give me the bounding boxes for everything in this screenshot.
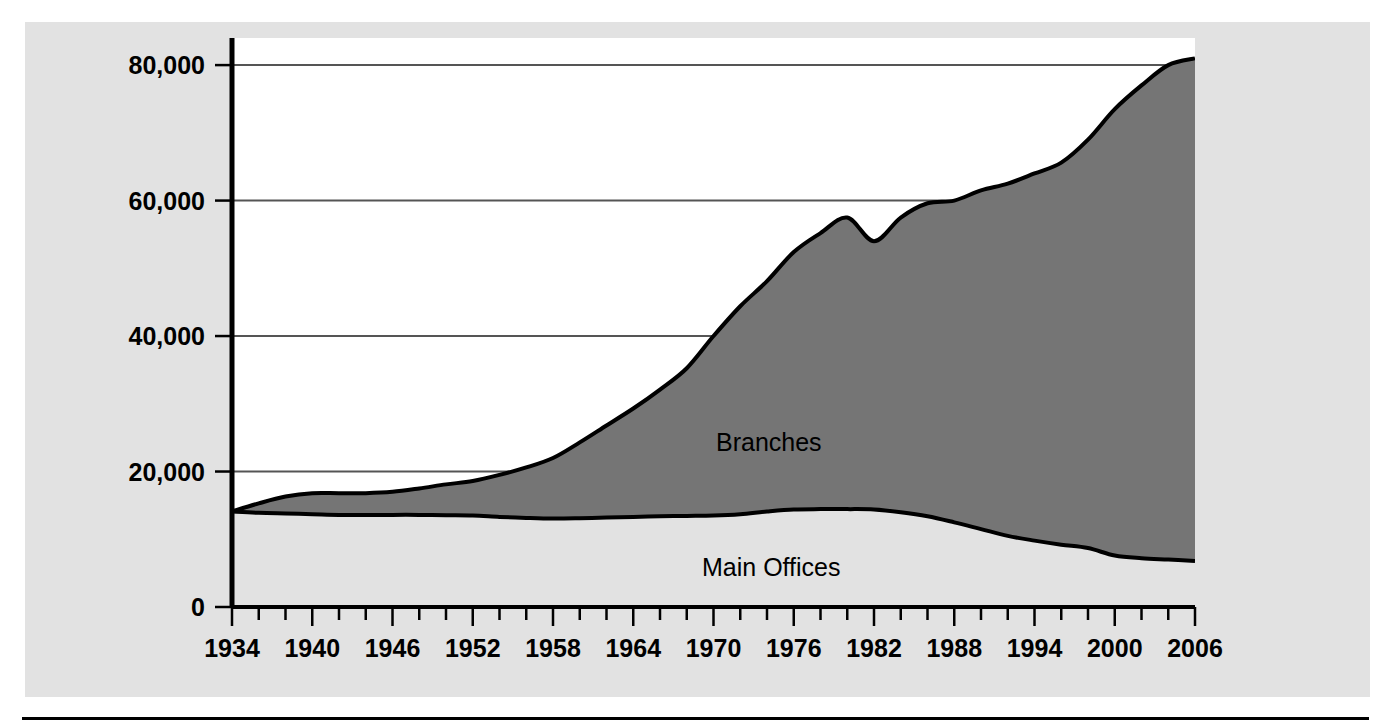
y-tick-label-80000: 80,000: [129, 51, 205, 79]
y-tick-label-0: 0: [191, 593, 205, 621]
x-tick-label-1934: 1934: [204, 634, 260, 662]
x-axis-tick-labels: 1934194019461952195819641970197619821988…: [204, 634, 1223, 662]
x-tick-label-1940: 1940: [284, 634, 340, 662]
y-axis-ticks: [215, 65, 232, 607]
x-tick-label-2000: 2000: [1087, 634, 1143, 662]
x-tick-label-1982: 1982: [846, 634, 902, 662]
y-tick-label-60000: 60,000: [129, 187, 205, 215]
branches-series-label: Branches: [716, 428, 822, 456]
x-tick-label-1976: 1976: [766, 634, 822, 662]
x-tick-label-1958: 1958: [525, 634, 581, 662]
x-tick-label-1970: 1970: [686, 634, 742, 662]
y-tick-label-40000: 40,000: [129, 322, 205, 350]
main-offices-series-label: Main Offices: [702, 553, 840, 581]
x-tick-label-1964: 1964: [605, 634, 661, 662]
figure-root: 020,00040,00060,00080,000 19341940194619…: [0, 0, 1391, 726]
area-chart: 020,00040,00060,00080,000 19341940194619…: [0, 0, 1391, 726]
y-axis-tick-labels: 020,00040,00060,00080,000: [129, 51, 205, 621]
x-tick-label-2006: 2006: [1167, 634, 1223, 662]
bottom-horizontal-rule: [22, 717, 1369, 720]
x-axis-ticks: [232, 607, 1195, 626]
x-tick-label-1994: 1994: [1007, 634, 1063, 662]
y-tick-label-20000: 20,000: [129, 458, 205, 486]
x-tick-label-1946: 1946: [365, 634, 421, 662]
x-tick-label-1952: 1952: [445, 634, 501, 662]
x-tick-label-1988: 1988: [926, 634, 982, 662]
